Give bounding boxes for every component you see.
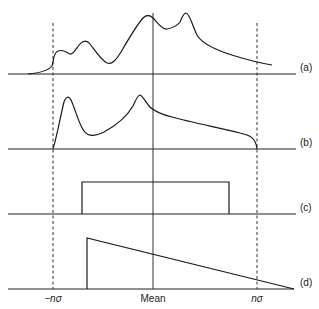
panel-a-label: (a) [300, 62, 312, 73]
panel-d: (d) [8, 238, 312, 289]
panel-c-rectangle [82, 182, 229, 214]
panel-b-curve [53, 95, 257, 149]
panel-a: (a) [8, 13, 312, 74]
panel-b-label: (b) [300, 137, 312, 148]
distribution-diagram: (a) (b) (c) (d) −nσ Mean nσ [0, 0, 319, 309]
panel-a-curve [28, 13, 272, 74]
mean-label: Mean [140, 293, 165, 304]
panel-b: (b) [8, 95, 312, 149]
panel-d-label: (d) [300, 277, 312, 288]
minus-n-sigma-label: −nσ [44, 293, 62, 304]
panel-c-label: (c) [300, 202, 312, 213]
panel-c: (c) [8, 182, 312, 214]
panel-d-triangle [87, 238, 294, 289]
n-sigma-label: nσ [251, 293, 264, 304]
